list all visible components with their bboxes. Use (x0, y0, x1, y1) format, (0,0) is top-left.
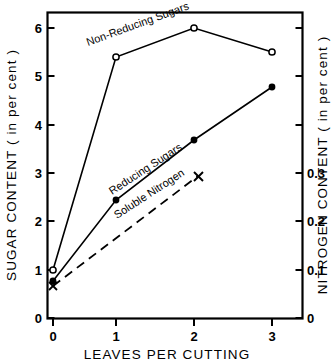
left-tick-labels: 0 1 2 3 4 5 6 (35, 21, 43, 326)
x-tick-label-2: 2 (190, 329, 197, 344)
reducing-point-x1 (113, 197, 120, 204)
chart-figure: 0 1 2 3 4 5 6 0 0.1 0.2 0.3 0 1 2 3 LEAV… (0, 0, 334, 362)
left-tick-label-2: 2 (35, 214, 42, 229)
left-axis-title: SUGAR CONTENT ( in per cent ) (4, 49, 19, 281)
soluble-nitrogen-point-x2 (194, 172, 203, 181)
right-tick-label-0: 0 (307, 311, 314, 326)
label-non-reducing-sugars: Non-Reducing Sugars (85, 0, 191, 48)
x-tick-label-0: 0 (49, 329, 56, 344)
non-reducing-point-x2 (191, 25, 197, 31)
reducing-point-x3 (269, 84, 276, 91)
x-axis-title: LEAVES PER CUTTING (84, 347, 251, 362)
left-tick-label-0: 0 (35, 311, 42, 326)
non-reducing-point-x1 (113, 54, 119, 60)
bottom-tick-labels: 0 1 2 3 (49, 329, 275, 344)
series-non-reducing-sugars (50, 25, 275, 273)
series-soluble-nitrogen (49, 172, 203, 290)
x-tick-label-3: 3 (268, 329, 275, 344)
left-tick-label-6: 6 (35, 21, 42, 36)
right-axis-title: NITROGEN CONTENT ( in per cent ) (315, 36, 330, 294)
left-tick-label-1: 1 (35, 263, 42, 278)
non-reducing-point-x0 (50, 267, 56, 273)
chart-canvas: 0 1 2 3 4 5 6 0 0.1 0.2 0.3 0 1 2 3 LEAV… (0, 0, 334, 362)
left-tick-label-5: 5 (35, 69, 42, 84)
reducing-point-x2 (191, 137, 198, 144)
left-tick-label-4: 4 (35, 118, 43, 133)
axes-border (48, 13, 303, 319)
plot-frame (48, 13, 303, 319)
non-reducing-sugars-line (53, 28, 272, 270)
non-reducing-point-x3 (269, 49, 275, 55)
left-tick-label-3: 3 (35, 166, 42, 181)
x-tick-label-1: 1 (112, 329, 119, 344)
